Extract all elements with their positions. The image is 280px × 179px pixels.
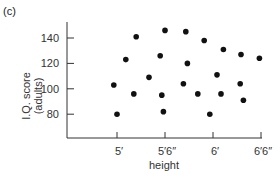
data-point: [257, 56, 263, 62]
x-tick-label: 5′: [115, 145, 123, 157]
data-point: [201, 38, 207, 44]
data-point: [241, 97, 247, 103]
data-point: [185, 61, 191, 67]
data-point: [123, 57, 129, 63]
x-tick-label: 6′6″: [254, 145, 272, 157]
x-tick-label: 5′6″: [158, 145, 176, 157]
x-axis-title: height: [149, 159, 179, 171]
data-point: [162, 28, 168, 34]
x-tick-label: 6′: [211, 145, 219, 157]
data-point: [161, 109, 167, 115]
data-point: [237, 81, 243, 87]
data-point: [183, 29, 189, 35]
data-point: [111, 82, 117, 88]
data-point: [221, 47, 227, 53]
data-point: [238, 52, 244, 58]
data-point: [214, 72, 220, 78]
data-point: [157, 53, 163, 59]
data-point: [181, 81, 187, 87]
data-point: [195, 91, 201, 97]
data-point: [146, 75, 152, 81]
data-point: [133, 34, 139, 40]
y-tick-label: 80: [47, 108, 59, 120]
data-point: [218, 91, 224, 97]
y-tick-label: 140: [41, 32, 59, 44]
data-point: [159, 92, 165, 98]
data-point: [114, 111, 120, 117]
y-tick-label: 120: [41, 57, 59, 69]
data-point: [131, 91, 137, 97]
y-axis-title: I.Q. score(adults): [20, 72, 44, 120]
data-point: [207, 111, 213, 117]
scatter-chart: 801001201405′5′6″6′6′6″heightI.Q. score(…: [0, 0, 280, 179]
